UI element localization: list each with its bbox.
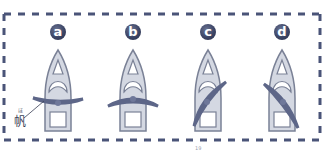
page-number: 19: [195, 145, 201, 151]
sail-label: 帆: [14, 112, 26, 129]
sail-leader-line: [0, 0, 327, 152]
